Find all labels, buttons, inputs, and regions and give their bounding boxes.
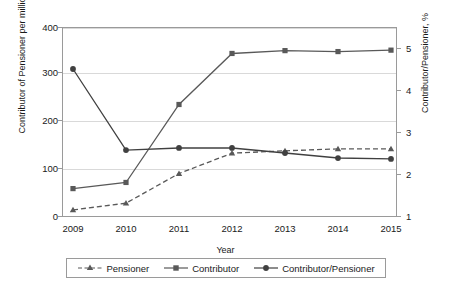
xtick-2012: 2012: [209, 223, 255, 234]
ytick-left-100: 100: [18, 163, 58, 174]
legend-label-contributor-pensioner: Contributor/Pensioner: [282, 263, 374, 274]
ytickmark-right-2: [397, 174, 401, 175]
ytickmark-right-3: [397, 132, 401, 133]
legend-item-pensioner[interactable]: Pensioner: [77, 263, 149, 274]
chart-legend: Pensioner Contributor Contributor/Pensio…: [66, 258, 386, 278]
plot-area: [62, 27, 397, 217]
x-axis-title: Year: [0, 245, 451, 255]
gridline-100: [63, 169, 396, 170]
square-marker-icon: [163, 263, 189, 273]
ytick-right-2: 2: [406, 169, 446, 180]
ytickmark-left-100: [58, 168, 62, 169]
ytickmark-right-4: [397, 90, 401, 91]
xtick-2009: 2009: [50, 223, 96, 234]
gridline-300: [63, 73, 396, 74]
gridline-400: [63, 28, 396, 29]
legend-item-contributor[interactable]: Contributor: [163, 263, 239, 274]
gridline-200: [63, 121, 396, 122]
xtick-2013: 2013: [262, 223, 308, 234]
xtick-2014: 2014: [315, 223, 361, 234]
ytick-left-0: 0: [18, 211, 58, 222]
y-axis-title-left: Contributor of Pensioner per million: [17, 0, 27, 143]
xtick-2011: 2011: [156, 223, 202, 234]
ytickmark-left-300: [58, 72, 62, 73]
ytickmark-left-200: [58, 120, 62, 121]
legend-label-contributor: Contributor: [192, 263, 239, 274]
ytickmark-right-5: [397, 48, 401, 49]
chart-figure: 400 300 200 100 0 5 4 3 2 1 2009 2010 20…: [0, 0, 451, 286]
legend-label-pensioner: Pensioner: [106, 263, 149, 274]
legend-item-contributor-pensioner[interactable]: Contributor/Pensioner: [253, 263, 374, 274]
xtick-2015: 2015: [368, 223, 414, 234]
xtick-2010: 2010: [103, 223, 149, 234]
ytick-right-1: 1: [406, 211, 446, 222]
y-axis-title-right: Contributor/Pensioner, %: [420, 0, 430, 143]
circle-marker-icon: [253, 263, 279, 273]
ytickmark-left-400: [58, 27, 62, 28]
triangle-marker-icon: [77, 263, 103, 273]
ytickmark-left-0: [58, 216, 62, 217]
ytickmark-right-1: [397, 216, 401, 217]
